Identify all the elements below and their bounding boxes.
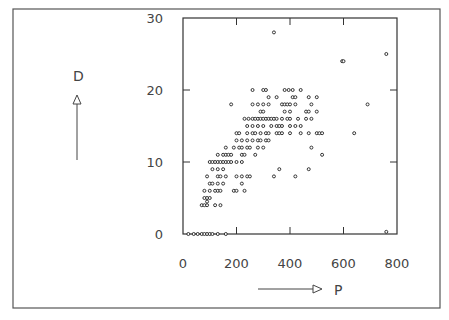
data-point bbox=[254, 153, 257, 156]
data-point bbox=[275, 96, 278, 99]
data-point bbox=[291, 89, 294, 92]
data-point bbox=[251, 103, 254, 106]
data-point bbox=[294, 125, 297, 128]
data-point bbox=[275, 117, 278, 120]
data-point bbox=[321, 153, 324, 156]
y-axis-label: D bbox=[73, 68, 84, 84]
data-point bbox=[305, 117, 308, 120]
data-point bbox=[216, 168, 219, 171]
data-point bbox=[272, 175, 275, 178]
data-point bbox=[235, 139, 238, 142]
data-point bbox=[211, 233, 214, 236]
x-arrow-head-icon bbox=[313, 285, 322, 293]
data-point bbox=[222, 182, 225, 185]
data-point bbox=[192, 233, 195, 236]
data-point bbox=[238, 132, 241, 135]
data-point bbox=[240, 146, 243, 149]
data-point bbox=[243, 117, 246, 120]
data-point bbox=[240, 139, 243, 142]
data-point bbox=[219, 204, 222, 207]
data-point bbox=[256, 146, 259, 149]
data-point bbox=[283, 89, 286, 92]
data-point bbox=[251, 125, 254, 128]
data-point bbox=[299, 132, 302, 135]
data-point bbox=[272, 31, 275, 34]
data-point bbox=[247, 117, 250, 120]
data-point bbox=[307, 96, 310, 99]
data-point bbox=[259, 132, 262, 135]
data-point bbox=[321, 132, 324, 135]
data-point bbox=[251, 89, 254, 92]
data-point bbox=[211, 182, 214, 185]
data-point bbox=[262, 110, 265, 113]
data-point bbox=[256, 125, 259, 128]
data-point bbox=[216, 153, 219, 156]
data-point bbox=[289, 125, 292, 128]
data-point bbox=[267, 103, 270, 106]
scatter-chart: 02004006008000102030 D P bbox=[0, 0, 449, 320]
data-point bbox=[246, 125, 249, 128]
data-point bbox=[187, 233, 190, 236]
data-point bbox=[297, 117, 300, 120]
data-point bbox=[287, 89, 290, 92]
data-point bbox=[315, 96, 318, 99]
data-point bbox=[224, 175, 227, 178]
data-point bbox=[206, 204, 209, 207]
data-point bbox=[280, 117, 283, 120]
data-point bbox=[280, 132, 283, 135]
data-point bbox=[262, 146, 265, 149]
data-point bbox=[307, 132, 310, 135]
data-point bbox=[307, 110, 310, 113]
data-point bbox=[254, 132, 257, 135]
data-point bbox=[235, 189, 238, 192]
data-point bbox=[224, 146, 227, 149]
data-point bbox=[310, 146, 313, 149]
data-point bbox=[283, 110, 286, 113]
data-point bbox=[385, 230, 388, 233]
data-point bbox=[289, 110, 292, 113]
data-point bbox=[230, 161, 233, 164]
data-point bbox=[307, 168, 310, 171]
data-point bbox=[196, 233, 199, 236]
data-point bbox=[230, 103, 233, 106]
data-point bbox=[294, 96, 297, 99]
x-tick-label: 800 bbox=[385, 256, 410, 271]
data-point bbox=[262, 103, 265, 106]
data-point bbox=[224, 233, 227, 236]
data-point bbox=[259, 139, 262, 142]
data-point bbox=[216, 233, 219, 236]
data-point bbox=[280, 125, 283, 128]
data-point bbox=[310, 117, 313, 120]
data-point bbox=[243, 153, 246, 156]
data-point bbox=[248, 175, 251, 178]
data-point bbox=[235, 175, 238, 178]
y-tick-label: 30 bbox=[146, 11, 163, 26]
data-point bbox=[289, 103, 292, 106]
tick-labels: 02004006008000102030 bbox=[146, 11, 409, 271]
data-point bbox=[248, 146, 251, 149]
data-point bbox=[342, 60, 345, 63]
data-point bbox=[267, 139, 270, 142]
data-point bbox=[214, 204, 217, 207]
data-point bbox=[219, 175, 222, 178]
data-point bbox=[299, 125, 302, 128]
data-point bbox=[251, 139, 254, 142]
data-point bbox=[299, 89, 302, 92]
x-tick-label: 200 bbox=[224, 256, 249, 271]
data-point bbox=[310, 103, 313, 106]
data-point bbox=[385, 53, 388, 56]
data-point bbox=[240, 161, 243, 164]
data-point bbox=[267, 96, 270, 99]
data-point bbox=[289, 117, 292, 120]
data-point bbox=[270, 125, 273, 128]
data-point bbox=[366, 103, 369, 106]
data-point bbox=[256, 103, 259, 106]
data-point bbox=[264, 89, 267, 92]
data-point bbox=[353, 132, 356, 135]
data-point bbox=[262, 125, 265, 128]
x-tick-label: 600 bbox=[331, 256, 356, 271]
y-tick-label: 20 bbox=[146, 83, 163, 98]
data-point bbox=[246, 132, 249, 135]
data-point bbox=[289, 132, 292, 135]
data-point bbox=[315, 110, 318, 113]
